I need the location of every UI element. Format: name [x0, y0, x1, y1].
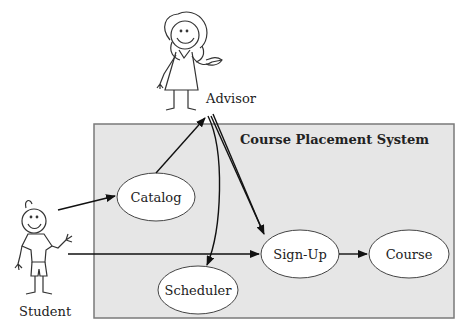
course-label: Course: [386, 247, 433, 262]
catalog-label: Catalog: [131, 190, 182, 205]
use-case-scheduler[interactable]: Scheduler: [158, 266, 238, 314]
use-case-course[interactable]: Course: [369, 230, 449, 278]
signup-label: Sign-Up: [273, 247, 326, 262]
student-actor-icon[interactable]: [15, 201, 72, 294]
use-case-signup[interactable]: Sign-Up: [261, 230, 339, 278]
use-case-diagram: Course Placement System Advisor: [0, 0, 472, 335]
use-case-catalog[interactable]: Catalog: [117, 173, 195, 221]
advisor-label: Advisor: [205, 91, 257, 106]
student-label: Student: [19, 304, 72, 319]
scheduler-label: Scheduler: [164, 283, 232, 298]
system-title: Course Placement System: [240, 132, 429, 147]
